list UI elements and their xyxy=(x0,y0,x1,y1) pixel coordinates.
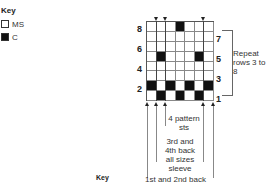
chart-cell xyxy=(185,52,195,62)
row-label-5: 5 xyxy=(216,54,221,64)
extension-line xyxy=(147,106,148,178)
chart-cell xyxy=(204,22,214,32)
sleeve-line-4: sleeve xyxy=(158,164,202,173)
chart-cell xyxy=(176,52,186,62)
key-item-c: C xyxy=(1,32,18,42)
pattern-line-2: sts xyxy=(166,123,202,132)
chart-cell xyxy=(185,22,195,32)
row-label-2: 2 xyxy=(137,84,142,94)
back-label: 1st and 2nd back xyxy=(145,175,206,184)
sleeve-label: 3rd and 4th back all sizes sleeve xyxy=(158,137,202,173)
key-label-c: C xyxy=(12,33,18,42)
chart-cell xyxy=(176,81,186,91)
key-item-ms: MS xyxy=(1,19,24,29)
chart-cell xyxy=(185,42,195,52)
marker-line xyxy=(165,21,166,101)
sleeve-line-3: all sizes xyxy=(158,155,202,164)
sleeve-line-2: 4th back xyxy=(158,146,202,155)
extension-line xyxy=(203,106,204,162)
chart-cell xyxy=(204,81,214,91)
repeat-line-1: Repeat xyxy=(233,49,269,58)
chart-cell xyxy=(185,62,195,72)
marker-line xyxy=(203,21,204,101)
chart-cell xyxy=(166,32,176,42)
chart-cell xyxy=(185,32,195,42)
chart-cell xyxy=(176,71,186,81)
repeat-bracket xyxy=(222,30,233,96)
bottom-key-title: Key xyxy=(96,174,109,181)
row-label-1: 1 xyxy=(216,94,221,104)
sleeve-line-1: 3rd and xyxy=(158,137,202,146)
row-label-6: 6 xyxy=(137,44,142,54)
row-label-7: 7 xyxy=(216,34,221,44)
chart-cell xyxy=(204,71,214,81)
chart-cell xyxy=(185,91,195,101)
marker-line xyxy=(156,21,157,101)
chart-cell xyxy=(204,52,214,62)
chart-cell xyxy=(185,81,195,91)
chart-cell xyxy=(166,81,176,91)
chart-cell xyxy=(166,71,176,81)
chart-cell xyxy=(176,22,186,32)
chart-cell xyxy=(185,71,195,81)
chart-cell xyxy=(204,32,214,42)
extension-line xyxy=(213,106,214,178)
chart-cell xyxy=(176,42,186,52)
chart-cell xyxy=(204,62,214,72)
chart-cell xyxy=(176,32,186,42)
chart-cell xyxy=(166,62,176,72)
chart-cell xyxy=(166,52,176,62)
row-label-4: 4 xyxy=(137,64,142,74)
chart-cell xyxy=(166,91,176,101)
chart-cell xyxy=(166,42,176,52)
filled-square-icon xyxy=(1,33,9,41)
empty-square-icon xyxy=(1,20,9,28)
key-label-ms: MS xyxy=(12,20,24,29)
repeat-line-2: rows 3 to 8 xyxy=(233,58,269,76)
chart-cell xyxy=(204,91,214,101)
repeat-label: Repeat rows 3 to 8 xyxy=(233,49,269,76)
key-title: Key xyxy=(1,6,16,15)
pattern-sts-label: 4 pattern sts xyxy=(166,114,202,132)
pattern-line-1: 4 pattern xyxy=(166,114,202,123)
chart-cell xyxy=(204,42,214,52)
chart-cell xyxy=(176,62,186,72)
chart-cell xyxy=(166,22,176,32)
chart-cell xyxy=(176,91,186,101)
row-label-3: 3 xyxy=(216,74,221,84)
row-label-8: 8 xyxy=(137,24,142,34)
extension-line xyxy=(156,106,157,162)
